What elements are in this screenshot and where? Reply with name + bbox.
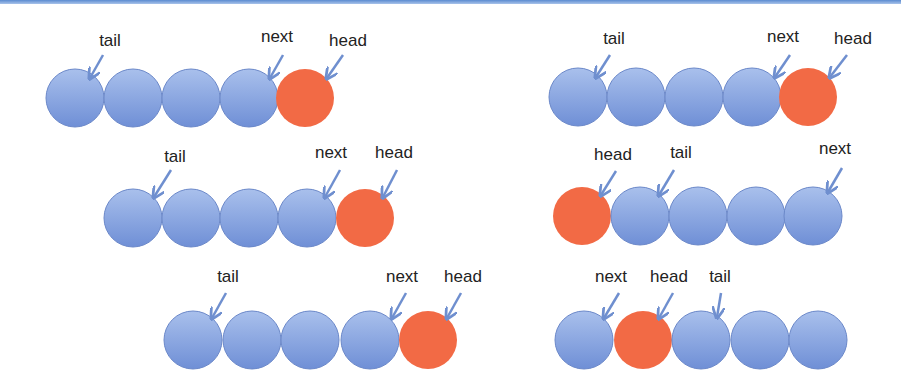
panel-row3-right: nextheadtail [555, 267, 847, 369]
head-node [399, 311, 457, 369]
head-label: head [650, 267, 688, 286]
pointer-arrow-icon [828, 168, 842, 192]
buffer-node [789, 311, 847, 369]
buffer-node [784, 187, 842, 245]
tail-label: tail [709, 267, 731, 286]
head-node [553, 187, 611, 245]
head-node [336, 189, 394, 247]
panel-row1-right: tailnexthead [549, 27, 872, 126]
buffer-node [46, 69, 104, 127]
pointer-arrow-icon [604, 293, 619, 318]
panel-row1-left: tailnexthead [46, 27, 367, 127]
head-node [276, 69, 334, 127]
head-node [779, 68, 837, 126]
pointer-arrow-icon [659, 170, 674, 195]
pointer-arrow-icon [596, 55, 610, 77]
head-label: head [444, 267, 482, 286]
pointer-arrow-icon [383, 170, 397, 197]
buffer-node [278, 189, 336, 247]
tail-label: tail [164, 147, 186, 166]
tail-label: tail [217, 267, 239, 286]
buffer-node [104, 69, 162, 127]
pointer-arrow-icon [270, 55, 283, 78]
buffer-node [672, 311, 730, 369]
pointer-arrow-icon [601, 171, 616, 195]
buffer-node [665, 68, 723, 126]
pointer-arrow-icon [830, 55, 847, 77]
tail-label: tail [603, 29, 625, 48]
pointer-arrow-icon [325, 170, 340, 197]
pointer-arrow-icon [659, 293, 673, 318]
pointer-arrow-icon [447, 293, 461, 318]
panel-row2-left: tailnexthead [104, 143, 413, 247]
buffer-node [281, 311, 339, 369]
buffer-node [162, 189, 220, 247]
pointer-arrow-icon [212, 293, 226, 318]
buffer-node [220, 69, 278, 127]
panel-row2-right: headtailnext [553, 139, 851, 245]
buffer-node [223, 311, 281, 369]
head-label: head [375, 143, 413, 162]
buffer-node [164, 311, 222, 369]
pointer-arrow-icon [90, 55, 103, 78]
buffer-node [723, 68, 781, 126]
buffer-node [669, 187, 727, 245]
ring-buffer-diagram: tailnextheadtailnextheadtailnextheadhead… [0, 0, 901, 386]
next-label: next [386, 267, 418, 286]
next-label: next [595, 267, 627, 286]
head-label: head [594, 145, 632, 164]
buffer-node [220, 189, 278, 247]
head-node [614, 311, 672, 369]
buffer-node [162, 69, 220, 127]
next-label: next [819, 139, 851, 158]
buffer-node [611, 187, 669, 245]
pointer-arrow-icon [717, 293, 721, 317]
buffer-node [555, 311, 613, 369]
pointer-arrow-icon [775, 55, 790, 77]
tail-label: tail [670, 143, 692, 162]
buffer-node [727, 187, 785, 245]
next-label: next [315, 143, 347, 162]
buffer-node [731, 311, 789, 369]
panel-row3-left: tailnexthead [164, 267, 482, 369]
buffer-node [607, 68, 665, 126]
pointer-arrow-icon [154, 170, 171, 197]
head-label: head [834, 29, 872, 48]
head-label: head [329, 31, 367, 50]
buffer-node [341, 311, 399, 369]
next-label: next [261, 27, 293, 46]
pointer-arrow-icon [392, 293, 406, 318]
pointer-arrow-icon [327, 55, 343, 78]
tail-label: tail [99, 31, 121, 50]
buffer-node [104, 189, 162, 247]
buffer-node [549, 68, 607, 126]
next-label: next [767, 27, 799, 46]
